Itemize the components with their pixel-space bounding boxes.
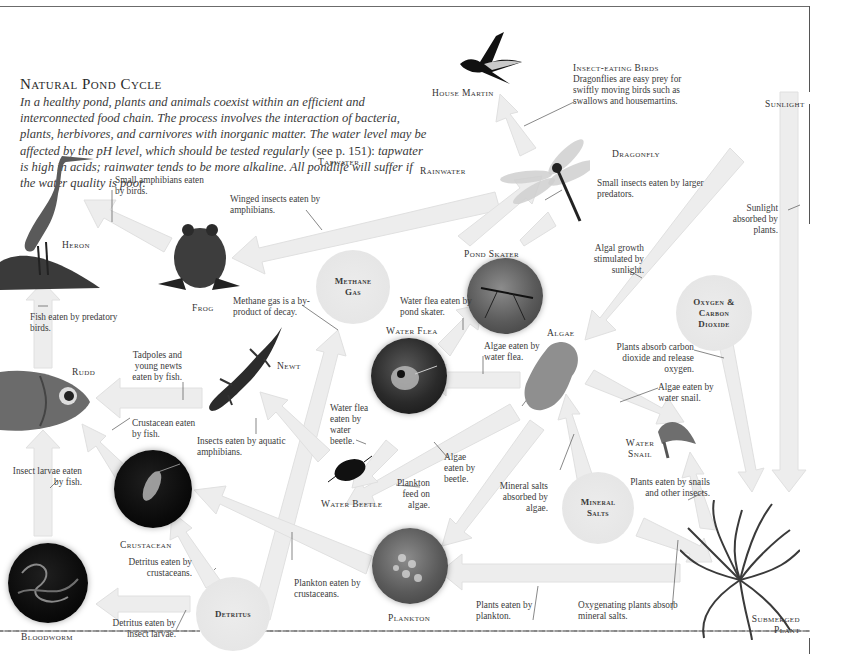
label-newt: Newt [277,361,301,371]
frog-image [152,220,246,294]
plankton-icon [372,528,448,604]
water-flea-icon [371,338,447,414]
note-algal-growth: Algal growth stimulated by sunlight. [566,243,644,276]
house-martin-image [452,28,524,88]
note-oxygenating-plants: Oxygenating plants absorb mineral salts. [578,600,678,622]
crustacean-icon [114,450,192,528]
pond-skater-icon [467,258,543,334]
arrow-sunlight-to-plant [772,92,806,492]
detritus-circle: Detritus [196,577,270,651]
algae-image [522,340,584,412]
note-winged-insects: Winged insects eaten by amphibians. [230,194,335,216]
page-reference: (see p. 151): [309,144,375,158]
plankton-image [372,528,448,604]
insect-eating-birds-note: Insect-eating Birds Dragonflies are easy… [573,63,698,107]
label-tapwater: Tapwater [318,157,359,167]
label-detritus: Detritus [215,609,251,620]
label-frog: Frog [192,303,214,313]
label-house-martin: House Martin [432,88,494,98]
note-water-flea-skater: Water flea eaten by pond skater. [400,296,472,318]
note-sunlight-absorbed: Sunlight absorbed by plants. [718,203,778,236]
label-sunlight: Sunlight [765,99,805,109]
label-water-beetle: Water Beetle [321,499,382,509]
arrow-oxygen-plant [718,338,764,492]
note-mineral-algae: Mineral salts absorbed by algae. [482,481,548,514]
note-insect-larvae-fish: Insect larvae eaten by fish. [4,466,82,488]
pond-skater-image [467,258,543,334]
bloodworm-icon [8,543,88,623]
insect-eating-birds-text: Dragonflies are easy prey for swiftly mo… [573,74,698,107]
leader-line [520,100,580,130]
mineral-salts-circle: Mineral Salts [562,472,634,544]
crustacean-image [114,450,192,528]
note-flea-beetle: Water flea eaten by water beetle. [330,403,372,447]
label-plankton: Plankton [388,613,430,623]
note-algae-snail: Algae eaten by water snail. [658,382,733,404]
note-algae-beetle: Algae eaten by beetle. [444,452,480,485]
water-snail-image [650,414,698,460]
label-rainwater: Rainwater [420,166,466,176]
note-plankton-crustaceans: Plankton eaten by crustaceans. [294,578,374,600]
note-crustacean-fish: Crustacean eaten by fish. [132,418,202,440]
dragonfly-image [500,135,590,225]
label-algae: Algae [547,328,575,338]
note-plants-absorb-co2: Plants absorb carbon dioxide and release… [606,342,694,375]
note-small-amphibians: Small amphibians eaten by birds. [115,175,210,197]
note-plants-plankton: Plants eaten by plankton. [476,600,546,622]
water-flea-image [371,338,447,414]
water-beetle-image [328,452,372,488]
note-methane-decay: Methane gas is a by-product of decay. [233,296,333,318]
arrow-newt-to-rudd [96,378,202,418]
label-bloodworm: Bloodworm [21,632,73,642]
note-plants-snails: Plants eaten by snails and other insects… [626,477,710,499]
note-small-insects: Small insects eaten by larger predators. [597,178,707,200]
note-plankton-algae: Plankton feed on algae. [380,478,430,511]
label-water-flea: Water Flea [386,326,438,336]
label-oxygen-co2: Oxygen & Carbon Dioxide [686,297,742,330]
label-heron: Heron [62,240,90,250]
label-submerged-plant: Submerged Plant [736,614,800,636]
label-methane-gas: Methane Gas [327,276,379,298]
newt-image [198,325,288,415]
label-dragonfly: Dragonfly [612,149,660,159]
arrow-plant-to-plankton [440,554,680,590]
note-insects-amphibians: Insects eaten by aquatic amphibians. [197,436,287,458]
note-detritus-crustaceans: Detritus eaten by crustaceans. [112,557,192,579]
arrow-detritus-to-bloodworm [96,588,190,620]
insect-eating-birds-heading: Insect-eating Birds [573,63,698,74]
note-detritus-larvae: Detritus eaten by insect larvae. [96,618,176,640]
heron-image [0,150,100,290]
label-crustacean: Crustacean [120,540,172,550]
bloodworm-image [8,543,88,623]
rudd-image [0,366,92,436]
label-mineral-salts: Mineral Salts [573,497,623,519]
oxygen-co2-circle: Oxygen & Carbon Dioxide [676,275,752,351]
page-title: Natural Pond Cycle [20,76,162,93]
note-tadpoles: Tadpoles and young newts eaten by fish. [116,350,182,383]
note-fish-birds: Fish eaten by predatory birds. [30,312,120,334]
